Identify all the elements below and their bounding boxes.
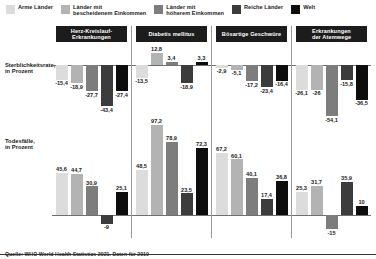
section-header: Herz-Kreislauf- Erkrankungen [56, 26, 127, 42]
legend-item: Reiche Länder [232, 4, 283, 14]
bar [181, 65, 193, 83]
bar-slot: -26,1 [296, 46, 308, 122]
bar-slot: -16,4 [276, 46, 288, 122]
bar-slot: -26 [311, 46, 323, 122]
plot-area: Sterblichkeitsrate, in Prozent Todesfäll… [5, 26, 371, 238]
bar [231, 65, 243, 70]
chart-section: Bösartige Geschwüre-2,9-5,1-17,2-23,4-16… [211, 26, 291, 238]
legend-swatch-icon [61, 5, 70, 14]
bar-slot: -2,9 [216, 46, 228, 122]
bar [71, 65, 83, 83]
section-header: Erkrankungen der Atemwege [296, 26, 367, 42]
bar [166, 62, 178, 65]
bar [356, 65, 368, 100]
chart-section: Diabetis mellitus-13,512,83,4-18,93,348,… [131, 26, 211, 238]
legend-swatch-icon [154, 5, 163, 14]
legend-item: Welt [291, 4, 315, 14]
bar [216, 65, 228, 68]
bar-slot: 10 [356, 122, 368, 234]
bar-slot: 72,3 [196, 122, 208, 234]
section-header: Diabetis mellitus [136, 26, 207, 42]
bar [101, 65, 113, 106]
bar-slot: -9 [101, 122, 113, 234]
bar [311, 65, 323, 90]
bar-slot: -43,4 [101, 46, 113, 122]
chart-section: Herz-Kreislauf- Erkrankungen-15,4-18,9-2… [52, 26, 131, 238]
legend-item: Arme Länder [6, 4, 53, 14]
bar-slot: 30,9 [86, 122, 98, 234]
bar [56, 65, 68, 80]
bar [276, 65, 288, 81]
bar [216, 153, 228, 216]
chart-root: Arme LänderLänder mit bescheidenem Einko… [0, 0, 376, 259]
bar-group: -13,512,83,4-18,93,3 [132, 46, 211, 122]
bar-group: 25,331,7-1535,910 [292, 122, 371, 234]
bar [86, 186, 98, 215]
panel-deaths: 48,597,278,923,572,3 [132, 122, 211, 234]
bar-group: -2,9-5,1-17,2-23,4-16,4 [212, 46, 291, 122]
axis-label-deaths-unit: in Prozent [5, 144, 52, 150]
bar-slot: 25,1 [116, 122, 128, 234]
legend-item: Länder mit höherem Einkommen [154, 4, 224, 16]
bar-slot: 78,9 [166, 122, 178, 234]
bar-value-label: -36,5 [349, 100, 375, 106]
bar-slot: 23,5 [181, 122, 193, 234]
bar-slot: -18,9 [71, 46, 83, 122]
bar [116, 65, 128, 91]
bar [196, 148, 208, 215]
bar-group: 67,260,140,117,436,8 [212, 122, 291, 234]
bar-slot: -17,2 [246, 46, 258, 122]
panel-deaths: 67,260,140,117,436,8 [212, 122, 291, 234]
bar [196, 62, 208, 65]
bar [101, 215, 113, 223]
bar [296, 192, 308, 216]
legend-item-label: Welt [303, 4, 315, 10]
legend-swatch-icon [232, 5, 241, 14]
bar-slot: 31,7 [311, 122, 323, 234]
bar-slot: 35,9 [341, 122, 353, 234]
axis-label-deaths: Todesfälle, in Prozent [5, 138, 52, 151]
bar-slot: 45,6 [56, 122, 68, 234]
chart-sections: Herz-Kreislauf- Erkrankungen-15,4-18,9-2… [52, 26, 371, 238]
chart-legend: Arme LänderLänder mit bescheidenem Einko… [6, 4, 372, 24]
bar [136, 170, 148, 215]
panel-mortality: -26,1-26-54,1-15,8-36,5 [292, 46, 371, 122]
legend-item-label: Arme Länder [18, 4, 53, 10]
legend-item-label: Länder mit höherem Einkommen [166, 4, 224, 16]
bar-slot: 40,1 [246, 122, 258, 234]
bar-group: 45,644,730,9-925,1 [52, 122, 131, 234]
panel-mortality: -15,4-18,9-27,7-43,4-27,4 [52, 46, 131, 122]
axis-label-mortality-unit: in Prozent [5, 68, 52, 74]
bar [356, 206, 368, 215]
bar-slot: 48,5 [136, 122, 148, 234]
bar [246, 65, 258, 81]
chart-section: Erkrankungen der Atemwege-26,1-26-54,1-1… [291, 26, 371, 238]
bar-slot: -13,5 [136, 46, 148, 122]
bar-slot: 3,3 [196, 46, 208, 122]
bar [311, 186, 323, 216]
legend-item-label: Länder mit bescheidenem Einkommen [73, 4, 146, 16]
bar [116, 192, 128, 215]
bar-slot: 60,1 [231, 122, 243, 234]
source-note: Quelle: WHO World Health Statistics 2021… [5, 251, 149, 257]
panel-deaths: 45,644,730,9-925,1 [52, 122, 131, 234]
bar [166, 142, 178, 216]
panel-deaths: 25,331,7-1535,910 [292, 122, 371, 234]
axis-label-mortality: Sterblichkeitsrate, in Prozent [5, 62, 52, 75]
bar [276, 181, 288, 215]
bar [136, 65, 148, 78]
bar-group: -15,4-18,9-27,7-43,4-27,4 [52, 46, 131, 122]
panel-mortality: -13,512,83,4-18,93,3 [132, 46, 211, 122]
legend-item-label: Reiche Länder [244, 4, 283, 10]
bar-group: 48,597,278,923,572,3 [132, 122, 211, 234]
bar-slot: 67,2 [216, 122, 228, 234]
bar [86, 65, 98, 91]
bar [261, 199, 273, 215]
bar [181, 193, 193, 215]
bar-slot: -15,8 [341, 46, 353, 122]
bar [231, 159, 243, 215]
panel-mortality: -2,9-5,1-17,2-23,4-16,4 [212, 46, 291, 122]
section-header: Bösartige Geschwüre [216, 26, 287, 42]
bar [296, 65, 308, 90]
bar [326, 215, 338, 229]
